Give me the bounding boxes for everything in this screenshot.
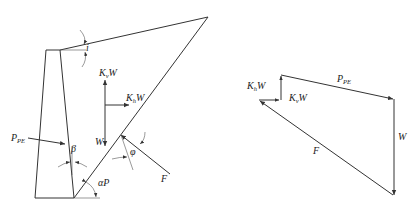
polygon-f-label: F: [312, 145, 320, 156]
w-label: W: [95, 136, 105, 147]
ppe-arrow: [28, 138, 65, 144]
kvw-label: KvW: [98, 67, 119, 79]
angle-phi-marker: [112, 132, 145, 170]
retaining-wall-diagram: i KvW KhW W PPE β αP F φ: [10, 17, 208, 198]
backfill-surface: [60, 17, 208, 50]
angle-beta-label: β: [70, 143, 76, 154]
diagram-canvas: i KvW KhW W PPE β αP F φ: [0, 0, 412, 208]
angle-i-label: i: [86, 42, 89, 53]
failure-plane: [74, 17, 208, 198]
angle-i-marker: [60, 30, 86, 67]
polygon-kvw-label: KvW: [288, 92, 309, 104]
polygon-khw-label: KhW: [246, 80, 267, 92]
force-polygon: KhW KvW PPE W F: [246, 73, 408, 195]
polygon-ppe-label: PPE: [336, 73, 351, 85]
polygon-f-vector: [260, 101, 393, 195]
f-label: F: [160, 173, 168, 184]
retaining-wall: [35, 50, 74, 198]
f-force-line: [121, 135, 170, 174]
ppe-label: PPE: [10, 132, 25, 144]
angle-alpha-arc: [86, 182, 96, 197]
polygon-w-label: W: [398, 131, 408, 142]
khw-label: KhW: [125, 92, 146, 104]
angle-phi-label: φ: [130, 146, 136, 157]
angle-alpha-label: αP: [98, 177, 109, 188]
